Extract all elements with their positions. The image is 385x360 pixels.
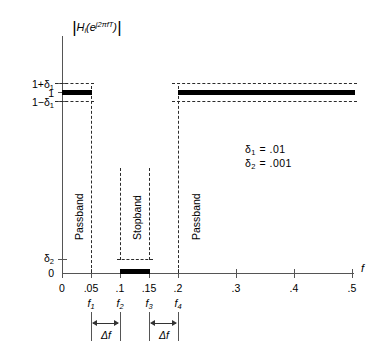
- x-tick-label-01: .1: [105, 282, 135, 294]
- tolerance-line-stopband-ceiling: [117, 259, 153, 260]
- measure-arrow-right-2: [172, 320, 177, 326]
- measure-label-transition-2: Δf: [149, 329, 179, 341]
- band-edge-label-f4: f4: [163, 297, 193, 309]
- x-axis-label: f: [361, 262, 364, 274]
- band-edge-line-f3: [149, 168, 150, 260]
- filter-spec-figure: |Hi(ej2πfT)| f 1+δ1 1 1−δ1 δ2 0 0 .05 .1…: [0, 0, 385, 360]
- measure-arrow-left-2: [150, 320, 155, 326]
- y-axis-title-open: (e: [86, 21, 96, 33]
- y-tick-delta2: [58, 259, 67, 260]
- abs-bar-right: |: [117, 18, 121, 37]
- y-axis-title: |Hi(ej2πfT)|: [72, 18, 121, 38]
- measure-label-transition-1: Δf: [91, 329, 121, 341]
- x-tick-label-015: .15: [134, 282, 164, 294]
- x-tick-04: [294, 269, 295, 278]
- x-tick-label-005: .05: [76, 282, 106, 294]
- x-axis-line: [62, 273, 354, 274]
- tolerance-note-delta2: δ2 = .001: [245, 157, 292, 169]
- x-tick-label-02: .2: [163, 282, 193, 294]
- measure-arrow-left-1: [92, 320, 97, 326]
- y-tick-label-delta2: δ2: [2, 252, 54, 264]
- band-edge-line-f4: [178, 86, 179, 273]
- band-label-passband-2: Passband: [190, 193, 202, 240]
- band-edge-label-f2: f2: [105, 297, 135, 309]
- response-bar-passband-2: [178, 90, 355, 95]
- y-axis-line: [62, 36, 63, 274]
- tolerance-line-upper-passband-2: [172, 83, 357, 84]
- band-edge-label-f3: f3: [134, 297, 164, 309]
- x-tick-label-05: .5: [337, 282, 367, 294]
- x-tick-label-04: .4: [279, 282, 309, 294]
- tolerance-line-lower-passband-2: [172, 101, 357, 102]
- response-bar-stopband: [120, 269, 150, 274]
- x-tick-label-0: 0: [47, 282, 77, 294]
- y-tick-label-lower: 1−δ1: [2, 96, 54, 108]
- band-label-stopband: Stopband: [131, 195, 143, 240]
- x-tick-03: [236, 269, 237, 278]
- band-label-passband-1: Passband: [73, 193, 85, 240]
- tolerance-note-delta1: δ1 = .01: [245, 143, 286, 155]
- measure-arrow-right-1: [114, 320, 119, 326]
- band-edge-line-f2: [120, 168, 121, 260]
- tolerance-line-upper-passband-1: [55, 83, 94, 84]
- y-axis-title-subscript: i: [84, 26, 86, 35]
- band-edge-line-f1: [91, 86, 92, 273]
- y-axis-title-exponent: j2πfT: [96, 20, 114, 29]
- y-tick-label-zero: 0: [2, 267, 54, 279]
- x-tick-label-03: .3: [221, 282, 251, 294]
- response-bar-passband-1: [62, 90, 92, 95]
- x-tick-05: [352, 269, 353, 278]
- x-tick-0: [62, 269, 63, 278]
- tolerance-line-lower-passband-1: [55, 101, 94, 102]
- band-edge-label-f1: f1: [76, 297, 106, 309]
